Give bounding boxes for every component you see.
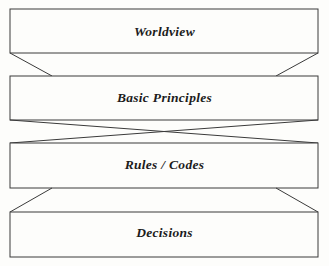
connector-worldview-basic-principles-right [276, 53, 318, 76]
tier-box-basic-principles [10, 76, 318, 120]
hierarchy-funnel-diagram: Worldview Basic Principles Rules / Codes… [0, 0, 329, 266]
connector-rules-codes-decisions-left [10, 188, 52, 212]
tier-box-rules-codes [10, 143, 318, 188]
diagram-canvas [0, 0, 329, 266]
connector-rules-codes-decisions-right [276, 188, 318, 212]
connector-worldview-basic-principles-left [10, 53, 52, 76]
tier-box-decisions [10, 212, 318, 257]
tier-box-worldview [10, 9, 318, 53]
